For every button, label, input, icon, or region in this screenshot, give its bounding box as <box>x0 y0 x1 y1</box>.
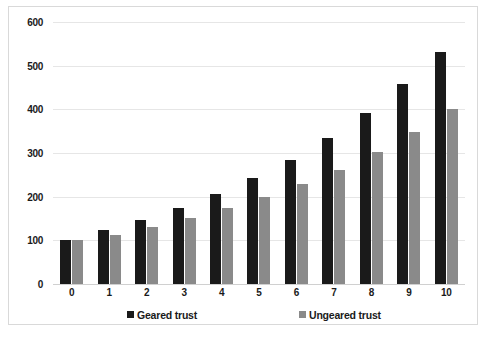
bar-group <box>90 22 127 284</box>
bar <box>372 152 383 284</box>
x-tick-label-9: 9 <box>390 287 427 298</box>
bar <box>72 240 83 284</box>
chart-legend: Geared trust Ungeared trust <box>9 309 477 325</box>
bar-group <box>203 22 240 284</box>
bar-series-group <box>53 22 465 284</box>
gridline-0 <box>53 284 465 285</box>
x-tick-label-7: 7 <box>315 287 352 298</box>
bar <box>247 178 258 284</box>
plot-area <box>53 22 465 284</box>
bar <box>210 194 221 284</box>
x-tick-label-4: 4 <box>203 287 240 298</box>
y-tick-label-500: 500 <box>9 60 43 71</box>
bar-group <box>353 22 390 284</box>
x-tick-label-5: 5 <box>240 287 277 298</box>
bar-group <box>278 22 315 284</box>
bar <box>334 170 345 284</box>
bar-group <box>315 22 352 284</box>
bar-group <box>165 22 202 284</box>
x-axis-tick-labels: 012345678910 <box>53 287 465 305</box>
x-tick-label-8: 8 <box>353 287 390 298</box>
bar <box>98 230 109 284</box>
bar <box>110 235 121 284</box>
x-tick-label-2: 2 <box>128 287 165 298</box>
bar <box>60 240 71 284</box>
bar <box>435 52 446 284</box>
y-tick-label-300: 300 <box>9 148 43 159</box>
x-tick-label-3: 3 <box>165 287 202 298</box>
bar <box>222 208 233 284</box>
x-tick-label-6: 6 <box>278 287 315 298</box>
bar <box>135 220 146 284</box>
y-tick-label-100: 100 <box>9 235 43 246</box>
legend-item-geared-trust: Geared trust <box>127 309 197 321</box>
bar <box>259 197 270 284</box>
y-tick-label-400: 400 <box>9 104 43 115</box>
chart-container: 6005004003002001000 012345678910 Geared … <box>8 6 478 325</box>
y-tick-label-600: 600 <box>9 17 43 28</box>
bar-group <box>128 22 165 284</box>
bar <box>185 218 196 284</box>
x-tick-label-10: 10 <box>428 287 465 298</box>
bar <box>173 208 184 284</box>
bar <box>285 160 296 284</box>
bar-group <box>240 22 277 284</box>
bar <box>447 109 458 284</box>
legend-swatch-icon-ungeared <box>299 311 306 318</box>
bar <box>297 184 308 284</box>
bar-group <box>53 22 90 284</box>
bar-group <box>390 22 427 284</box>
x-tick-label-1: 1 <box>90 287 127 298</box>
legend-item-ungeared-trust: Ungeared trust <box>299 309 381 321</box>
y-tick-label-200: 200 <box>9 191 43 202</box>
bar <box>409 132 420 284</box>
bar <box>322 138 333 284</box>
bar <box>397 84 408 284</box>
legend-label-geared: Geared trust <box>137 309 197 321</box>
bar-group <box>428 22 465 284</box>
legend-label-ungeared: Ungeared trust <box>309 309 381 321</box>
x-tick-label-0: 0 <box>53 287 90 298</box>
bar <box>360 113 371 284</box>
y-tick-label-0: 0 <box>9 279 43 290</box>
bar <box>147 227 158 284</box>
legend-swatch-icon-geared <box>127 311 134 318</box>
